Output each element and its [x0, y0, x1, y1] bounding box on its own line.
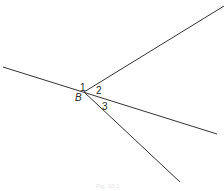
figure-caption: Fig. 10.1 — [96, 183, 120, 189]
transversal-line — [3, 67, 217, 134]
angle-label-2: 2 — [96, 85, 102, 96]
angle-diagram: 1 2 3 B Fig. 10.1 — [0, 0, 224, 191]
vertex-label: B — [75, 92, 82, 103]
upper-ray — [84, 6, 224, 92]
lower-ray — [84, 92, 180, 182]
angle-label-3: 3 — [102, 101, 108, 112]
